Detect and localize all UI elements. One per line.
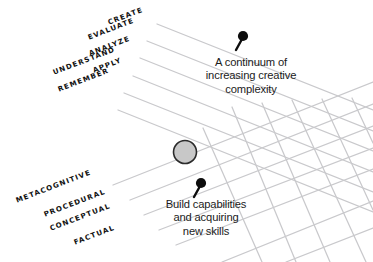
grid-line-procedural xyxy=(130,104,373,200)
capabilities-annotation: Build capabilities and acquiring new ski… xyxy=(148,198,264,238)
intersection-node xyxy=(174,141,197,164)
continuum-annotation: A continuum of increasing creative compl… xyxy=(196,56,306,96)
grid-line-extra-d xyxy=(262,103,330,262)
pin-marker-top xyxy=(236,31,248,50)
diagram-canvas: CREATE EVALUATE ANALYZE APPLY UNDERSTAND… xyxy=(0,0,373,262)
grid-line-extra-h xyxy=(232,107,296,262)
grid-line-extra-c xyxy=(286,228,373,262)
grid-line-understand xyxy=(124,93,373,192)
grid-line-extra-i xyxy=(203,128,262,262)
pin-marker-bottom xyxy=(194,178,206,197)
